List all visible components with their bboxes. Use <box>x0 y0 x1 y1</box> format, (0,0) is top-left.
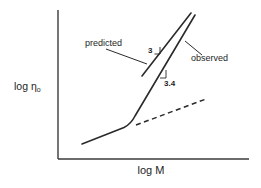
y-axis-label: log ηo <box>14 80 41 93</box>
predicted-line-group: 3 predicted <box>85 13 191 76</box>
diagram-figure: log ηo log M 3 predicted 3.4 observed <box>0 0 261 188</box>
predicted-slope-label: 3 <box>148 46 153 55</box>
extrapolation-dashed-line <box>136 99 206 125</box>
predicted-leader-line <box>106 49 147 64</box>
x-axis-label: log M <box>138 164 165 176</box>
predicted-label: predicted <box>85 38 122 48</box>
y-axis-label-text: log η <box>14 80 37 92</box>
predicted-line <box>142 13 191 76</box>
observed-line-group: 3.4 observed <box>82 15 228 144</box>
y-axis-label-subscript: o <box>37 86 41 93</box>
observed-label: observed <box>191 53 228 63</box>
observed-slope-label: 3.4 <box>164 79 176 88</box>
